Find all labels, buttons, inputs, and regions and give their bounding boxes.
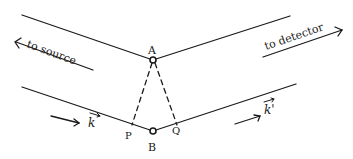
lower-incident-ray (22, 87, 150, 130)
atom-b-circle (150, 128, 156, 134)
point-a-label: A (147, 44, 157, 57)
to-source-label: to source (25, 38, 78, 68)
point-b-label: B (148, 141, 156, 154)
atom-a-circle (150, 57, 156, 63)
scattered-wavevector-label: k' (264, 103, 275, 117)
diagram-canvas: to source to detector A B P Q k k' (0, 0, 353, 159)
dashed-line-aq (155, 63, 177, 125)
scattered-arrow-line (235, 116, 260, 124)
to-detector-label: to detector (263, 20, 326, 53)
point-p-label: P (125, 130, 132, 141)
incident-wavevector-label: k (88, 116, 95, 130)
dashed-line-ap (132, 63, 152, 125)
point-q-label: Q (172, 125, 180, 136)
diagram-svg: to source to detector A B P Q k k' (0, 0, 353, 159)
